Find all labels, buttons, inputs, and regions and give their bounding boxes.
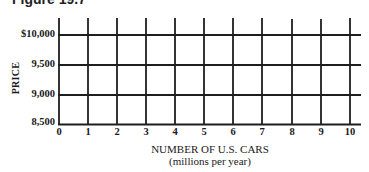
- x-tick-label: 9: [311, 126, 331, 137]
- x-tick-label: 3: [136, 126, 156, 137]
- x-tick-label: 0: [49, 126, 69, 137]
- x-tick-label: 7: [252, 126, 272, 137]
- x-axis-title-main: NUMBER OF U.S. CARS: [110, 143, 310, 155]
- x-axis-title: NUMBER OF U.S. CARS (millions per year): [110, 143, 310, 167]
- x-tick-label: 6: [223, 126, 243, 137]
- x-axis-title-sub: (millions per year): [110, 155, 310, 167]
- x-tick-label: 2: [107, 126, 127, 137]
- y-tick-label: 8,500: [3, 116, 55, 127]
- x-tick-label: 4: [165, 126, 185, 137]
- x-tick-label: 10: [340, 126, 360, 137]
- y-tick-label: $10,000: [3, 28, 55, 39]
- x-tick-label: 8: [282, 126, 302, 137]
- x-tick-label: 5: [194, 126, 214, 137]
- x-tick-label: 1: [78, 126, 98, 137]
- y-axis-title: PRICE: [10, 62, 21, 95]
